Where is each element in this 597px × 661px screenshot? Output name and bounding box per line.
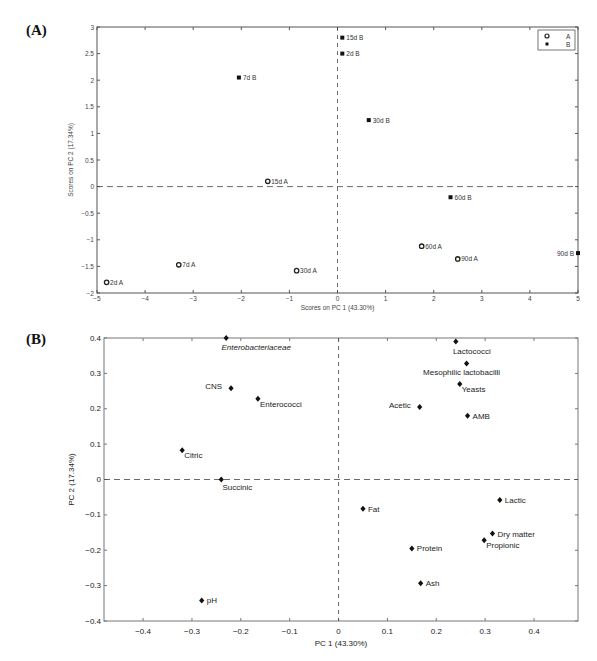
- point-label: Propionic: [486, 541, 519, 550]
- point-label: Mesophilic lactobacilli: [423, 368, 500, 377]
- point-label: Fat: [368, 505, 380, 514]
- data-point: Citric: [180, 447, 203, 460]
- point-label: Ash: [426, 579, 440, 588]
- point-label: Yeasts: [462, 385, 486, 394]
- diamond-marker-icon: [224, 335, 229, 341]
- x-tick-label: 0.1: [382, 627, 394, 636]
- x-axis-label: PC 1 (43.30%): [315, 639, 368, 648]
- diamond-marker-icon: [409, 545, 414, 551]
- y-tick-label: −0.3: [85, 581, 101, 590]
- data-point: Lactic: [497, 496, 526, 505]
- diamond-marker-icon: [360, 506, 365, 512]
- x-tick-label: −0.3: [184, 627, 200, 636]
- point-label: Dry matter: [497, 530, 535, 539]
- point-label: pH: [207, 596, 217, 605]
- x-tick-label: 0.4: [528, 627, 540, 636]
- diamond-marker-icon: [453, 339, 458, 345]
- y-tick-label: 0.3: [90, 369, 102, 378]
- point-label: Enterococci: [260, 400, 302, 409]
- data-point: Enterococci: [255, 396, 302, 409]
- point-label: Succinic: [222, 483, 252, 492]
- x-tick-label: 0.3: [480, 627, 492, 636]
- diamond-marker-icon: [465, 413, 470, 419]
- data-point: Yeasts: [457, 381, 485, 394]
- diamond-marker-icon: [497, 497, 502, 503]
- x-tick-label: 0.2: [431, 627, 443, 636]
- data-point: AMB: [465, 412, 490, 421]
- data-point: Mesophilic lactobacilli: [423, 360, 500, 377]
- data-point: Dry matter: [490, 530, 535, 539]
- y-tick-label: 0.2: [90, 404, 102, 413]
- y-axis-label: PC 2 (17.34%): [67, 453, 76, 506]
- data-point: Propionic: [482, 537, 520, 550]
- data-point: Lactococci: [453, 339, 491, 356]
- y-tick-label: 0: [97, 475, 102, 484]
- point-label: Enterobacteriaceae: [221, 343, 291, 352]
- point-label: Protein: [417, 544, 442, 553]
- x-tick-label: 0: [336, 627, 341, 636]
- point-label: Acetic: [389, 401, 411, 410]
- point-label: AMB: [473, 412, 490, 421]
- diamond-marker-icon: [228, 385, 233, 391]
- point-label: Citric: [184, 451, 202, 460]
- diamond-marker-icon: [417, 404, 422, 410]
- diamond-marker-icon: [490, 531, 495, 537]
- diamond-marker-icon: [464, 360, 469, 366]
- data-point: Succinic: [219, 477, 252, 492]
- y-tick-label: −0.2: [85, 546, 101, 555]
- y-tick-label: −0.1: [85, 510, 101, 519]
- x-tick-label: −0.1: [282, 627, 298, 636]
- y-tick-label: 0.1: [90, 440, 102, 449]
- point-label: CNS: [205, 382, 222, 391]
- diamond-marker-icon: [418, 580, 423, 586]
- data-point: Ash: [418, 579, 439, 588]
- data-point: pH: [199, 596, 217, 605]
- data-point: Acetic: [389, 401, 422, 410]
- x-tick-label: −0.2: [233, 627, 249, 636]
- data-point: Fat: [360, 505, 380, 514]
- x-tick-label: −0.4: [135, 627, 151, 636]
- data-point: Protein: [409, 544, 442, 553]
- y-tick-label: −0.4: [85, 617, 101, 626]
- diamond-marker-icon: [199, 597, 204, 603]
- chart-b-pca-loadings: −0.4−0.3−0.2−0.100.10.20.30.4−0.4−0.3−0.…: [0, 0, 597, 661]
- y-tick-label: 0.4: [90, 334, 102, 343]
- point-label: Lactic: [505, 496, 526, 505]
- data-point: CNS: [205, 382, 233, 391]
- point-label: Lactococci: [453, 347, 491, 356]
